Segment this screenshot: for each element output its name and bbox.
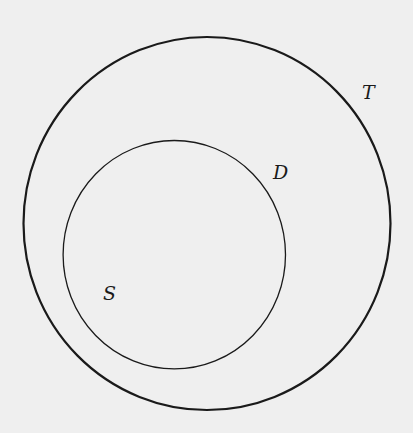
background [0,0,413,433]
nested-set-diagram: T D S [0,0,413,433]
set-label-t: T [362,81,376,103]
set-label-d: D [272,161,288,183]
element-label-s: S [103,282,116,304]
